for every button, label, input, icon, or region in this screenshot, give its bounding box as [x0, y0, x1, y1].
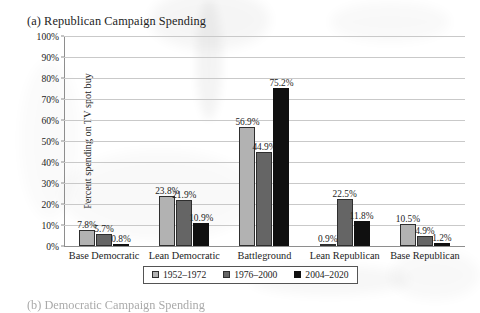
bar: 7.8%	[79, 230, 95, 246]
bar-group: 7.8%5.7%0.8%Base Democratic	[64, 36, 144, 246]
bar-value-label: 0.8%	[111, 234, 131, 244]
next-figure-title: (b) Democratic Campaign Spending	[27, 298, 205, 313]
gridline	[64, 246, 465, 247]
bar-value-label: 22.5%	[333, 189, 357, 199]
bar-value-label: 10.5%	[396, 214, 420, 224]
y-axis-tick-label: 40%	[41, 157, 59, 168]
bar-value-label: 1.2%	[432, 233, 452, 243]
x-axis-category-label: Lean Democratic	[149, 250, 220, 261]
figure-title: (a) Republican Campaign Spending	[27, 14, 206, 29]
y-axis-tick-label: 70%	[41, 94, 59, 105]
legend-swatch-icon	[294, 271, 301, 278]
y-axis-tick-label: 60%	[41, 115, 59, 126]
x-axis-category-label: Base Republican	[390, 250, 459, 261]
bar: 4.9%	[417, 236, 433, 246]
legend-item: 2004–2020	[294, 269, 348, 280]
bar-group: 23.8%21.9%10.9%Lean Democratic	[144, 36, 224, 246]
bar-group: 10.5%4.9%1.2%Base Republican	[385, 36, 465, 246]
bar-value-label: 75.2%	[269, 78, 293, 88]
chart-legend: 1952–1972 1976–2000 2004–2020	[143, 266, 358, 284]
plot-area: Percent spending on TV spot buy 0%10%20%…	[64, 36, 465, 246]
bar: 10.5%	[400, 224, 416, 246]
y-axis-tick-label: 10%	[41, 220, 59, 231]
bar: 0.8%	[113, 244, 129, 246]
bar-value-label: 0.9%	[318, 234, 338, 244]
y-axis-tick-label: 0%	[46, 241, 59, 252]
y-axis-tick-label: 30%	[41, 178, 59, 189]
legend-swatch-icon	[223, 271, 230, 278]
legend-label: 1952–1972	[163, 269, 206, 280]
bar-group-bars: 23.8%21.9%10.9%	[144, 36, 224, 246]
bar: 22.5%	[337, 199, 353, 246]
x-axis-category-label: Lean Republican	[310, 250, 380, 261]
y-axis-tick-label: 100%	[37, 31, 59, 42]
bar-group-bars: 56.9%44.9%75.2%	[224, 36, 304, 246]
bar-value-label: 10.9%	[189, 213, 213, 223]
bar: 44.9%	[256, 152, 272, 246]
bar: 1.2%	[434, 243, 450, 246]
y-axis-tick-label: 80%	[41, 73, 59, 84]
bar: 5.7%	[96, 234, 112, 246]
bar-group: 0.9%22.5%11.8%Lean Republican	[305, 36, 385, 246]
bar-value-label: 11.8%	[350, 211, 374, 221]
bar: 10.9%	[193, 223, 209, 246]
legend-item: 1976–2000	[223, 269, 277, 280]
bar: 0.9%	[320, 244, 336, 246]
bar-group-bars: 7.8%5.7%0.8%	[64, 36, 144, 246]
y-axis-tick-label: 50%	[41, 136, 59, 147]
y-axis-tick-label: 20%	[41, 199, 59, 210]
legend-item: 1952–1972	[152, 269, 206, 280]
bar-group-bars: 0.9%22.5%11.8%	[305, 36, 385, 246]
bar-value-label: 5.7%	[94, 224, 114, 234]
legend-label: 2004–2020	[305, 269, 348, 280]
bar-group: 56.9%44.9%75.2%Battleground	[224, 36, 304, 246]
y-axis-tick-label: 90%	[41, 52, 59, 63]
bar-value-label: 21.9%	[172, 190, 196, 200]
bar: 11.8%	[354, 221, 370, 246]
x-axis-category-label: Base Democratic	[69, 250, 140, 261]
bar-group-bars: 10.5%4.9%1.2%	[385, 36, 465, 246]
bar-value-label: 56.9%	[235, 117, 259, 127]
bar: 75.2%	[273, 88, 289, 246]
legend-swatch-icon	[152, 271, 159, 278]
x-axis-category-label: Battleground	[238, 250, 292, 261]
bar: 23.8%	[159, 196, 175, 246]
legend-label: 1976–2000	[234, 269, 277, 280]
